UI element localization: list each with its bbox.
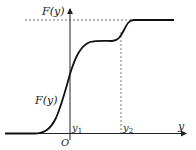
- origin-label: O: [61, 137, 69, 148]
- curve-label: F(y): [34, 94, 57, 107]
- cdf-curve: [5, 20, 174, 134]
- cdf-chart: F(y) F(y) O y y1 y2: [0, 0, 196, 150]
- x-axis-label: y: [177, 120, 185, 133]
- y-axis-label: F(y): [41, 5, 64, 18]
